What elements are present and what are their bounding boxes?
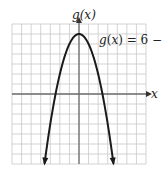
function-graph: g(x) x g(x) = 6 − x2 bbox=[0, 0, 165, 172]
x-axis-label: x bbox=[151, 87, 158, 101]
y-axis-label: g(x) bbox=[72, 8, 96, 22]
equation-label: g(x) = 6 − x2 bbox=[99, 32, 165, 47]
